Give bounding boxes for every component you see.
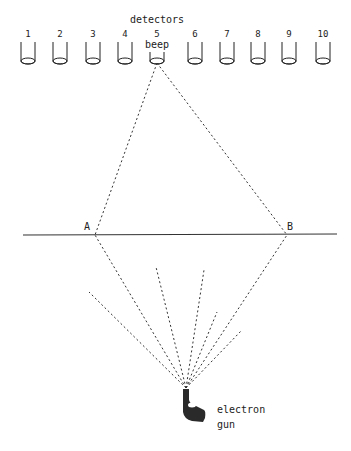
detector-cup-icon: [53, 42, 67, 64]
beep-label: beep: [145, 39, 169, 50]
paths-to-detector: [95, 63, 287, 235]
detector-cup-icon: [316, 42, 330, 64]
detector-number: 6: [192, 29, 197, 39]
detector-number: 2: [57, 29, 62, 39]
detectors-title: detectors: [130, 14, 184, 25]
detector-number: 10: [318, 29, 329, 39]
detector-number: 4: [122, 29, 127, 39]
ray: [186, 330, 242, 388]
slit-label-a: A: [84, 221, 90, 232]
detector-number: 3: [90, 29, 95, 39]
detector-number: 5: [154, 29, 159, 39]
detector-cup-icon-hit: [150, 52, 164, 64]
detector-cup-icon: [188, 42, 202, 64]
detector-cup-icon: [118, 42, 132, 64]
ray: [186, 270, 204, 388]
detector-cup-icon: [220, 42, 234, 64]
detector-cup-icon: [21, 42, 35, 64]
gun-label-line2: gun: [217, 419, 235, 430]
electron-rays: [89, 235, 287, 388]
detector-number: 1: [25, 29, 30, 39]
detector-cups: [21, 42, 330, 64]
path-a-to-detector: [95, 63, 157, 235]
gun-label-line1: electron: [217, 404, 265, 415]
electron-gun-icon: [183, 389, 205, 422]
detector-number: 8: [255, 29, 260, 39]
detector-numbers: 1 2 3 4 5 6 7 8 9 10: [25, 29, 328, 39]
detector-number: 9: [286, 29, 291, 39]
barrier-line: [23, 234, 337, 235]
ray: [186, 312, 217, 388]
double-slit-diagram: detectors 1 2 3 4 5 6 7 8 9 10 beep A B: [0, 0, 351, 451]
ray: [156, 267, 186, 388]
ray-to-b: [186, 235, 287, 388]
detector-cup-icon: [251, 42, 265, 64]
slit-label-b: B: [287, 221, 293, 232]
detector-cup-icon: [86, 42, 100, 64]
detector-cup-icon: [282, 42, 296, 64]
path-b-to-detector: [157, 63, 287, 235]
detector-number: 7: [224, 29, 229, 39]
